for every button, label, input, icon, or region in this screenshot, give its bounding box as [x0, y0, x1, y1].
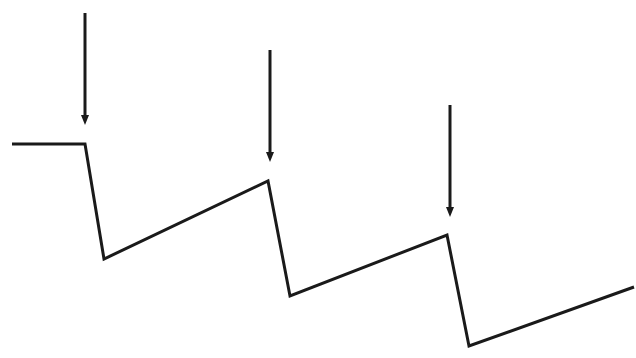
down-arrow-icon	[446, 105, 454, 217]
down-arrow-icon	[266, 50, 274, 162]
down-arrow-icon	[81, 13, 89, 125]
arrows-group	[81, 13, 454, 217]
sawtooth-line	[12, 144, 634, 346]
figure-caption	[0, 349, 636, 358]
sawtooth-diagram	[0, 0, 636, 358]
